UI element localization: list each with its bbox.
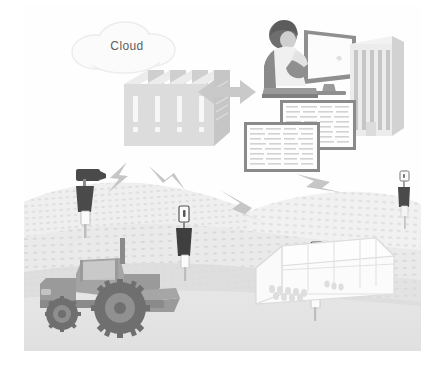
figure-canvas: Cloud (0, 0, 445, 370)
tractor (24, 6, 421, 351)
illustration-scene: Cloud (24, 6, 421, 351)
